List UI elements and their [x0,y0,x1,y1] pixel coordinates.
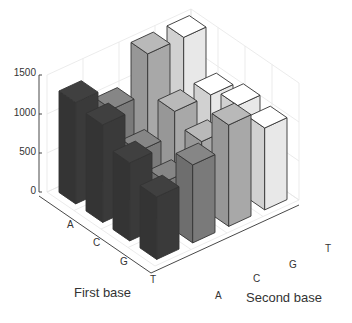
second-base-tick-t: T [325,243,331,254]
z-tick-1500: 1500 [14,67,37,78]
z-tick-1000: 1000 [14,107,37,118]
second-base-tick-g: G [289,259,297,270]
second-base-axis-title: Second base [246,290,322,305]
bar-face-side [157,187,179,260]
first-base-axis-title: First base [74,285,131,300]
bar-TA [140,175,179,259]
second-base-tick-a: A [215,290,222,301]
bar-face-side [193,155,215,243]
bar-face-front [113,151,130,241]
first-base-tick-a: A [67,219,74,230]
bar-face-front [86,113,103,222]
bar-TG [212,103,251,226]
first-base-tick-c: C [93,237,100,248]
z-tick-0: 0 [30,185,36,196]
bars [59,16,287,260]
bar-face-side [265,118,287,210]
bar-face-side [229,115,251,227]
bar-face-front [59,91,76,204]
z-tick-500: 500 [19,146,36,157]
bar-TC [176,143,215,243]
first-base-tick-g: G [120,256,128,267]
bar3d-chart: 0 500 1000 1500 A C G T A C G T First ba… [0,0,352,323]
first-base-tick-t: T [150,274,156,285]
bar-TT [248,106,287,210]
second-base-tick-c: C [253,273,260,284]
bar-face-front [140,186,157,260]
